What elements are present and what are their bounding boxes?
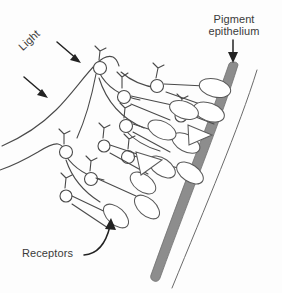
cell-body xyxy=(94,62,107,75)
receptors-arrow xyxy=(84,218,116,255)
cell-body xyxy=(98,140,110,152)
label-pigment-epithelium-line2: epithelium xyxy=(193,25,275,37)
cell-body xyxy=(60,146,73,159)
cell-body xyxy=(120,120,133,133)
rod-outer-segment xyxy=(167,97,201,123)
retina-diagram: Light Pigment epithelium Receptors xyxy=(0,0,282,293)
label-receptors: Receptors xyxy=(22,247,73,259)
cell-body xyxy=(60,190,72,202)
rod-outer-segment xyxy=(99,200,133,233)
cell-body xyxy=(118,91,131,104)
cell-body xyxy=(85,173,98,186)
pigment-epithelium-arrow xyxy=(228,40,238,63)
inner-retinal-surface-lower xyxy=(0,144,65,170)
label-pigment-epithelium: Pigment epithelium xyxy=(193,13,275,37)
light-arrow-lower xyxy=(24,77,48,98)
light-arrow-upper xyxy=(57,42,81,63)
label-pigment-epithelium-line1: Pigment xyxy=(193,13,275,25)
axon-arc-3 xyxy=(77,74,96,138)
cell-body xyxy=(151,80,164,93)
